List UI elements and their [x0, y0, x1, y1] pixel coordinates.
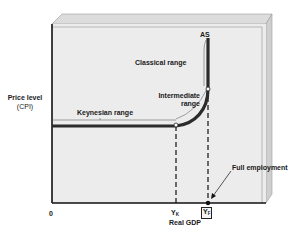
- y-axis-sublabel: (CPI): [0, 103, 50, 111]
- box-right-face: [266, 14, 272, 203]
- box-top-face: [52, 14, 272, 24]
- yf-point: [206, 87, 210, 91]
- y-axis-label: Price level: [0, 94, 50, 102]
- as-curve-diagram: [0, 0, 303, 227]
- origin-label: 0: [49, 210, 53, 218]
- yk-point: [174, 123, 178, 127]
- as-label: AS: [200, 31, 210, 39]
- yk-tick-label: YK: [171, 209, 179, 219]
- yf-tick-label: YF: [201, 207, 212, 219]
- x-axis-label: Real GDP: [130, 219, 240, 227]
- keynesian-range-label: Keynesian range: [77, 109, 133, 117]
- intermediate-range-label-1: Intermediate: [150, 92, 200, 100]
- full-employment-label: Full employment: [232, 164, 288, 172]
- classical-range-label: Classical range: [135, 59, 186, 67]
- full-employment-point: [206, 201, 210, 205]
- intermediate-range-label-2: range: [150, 100, 200, 108]
